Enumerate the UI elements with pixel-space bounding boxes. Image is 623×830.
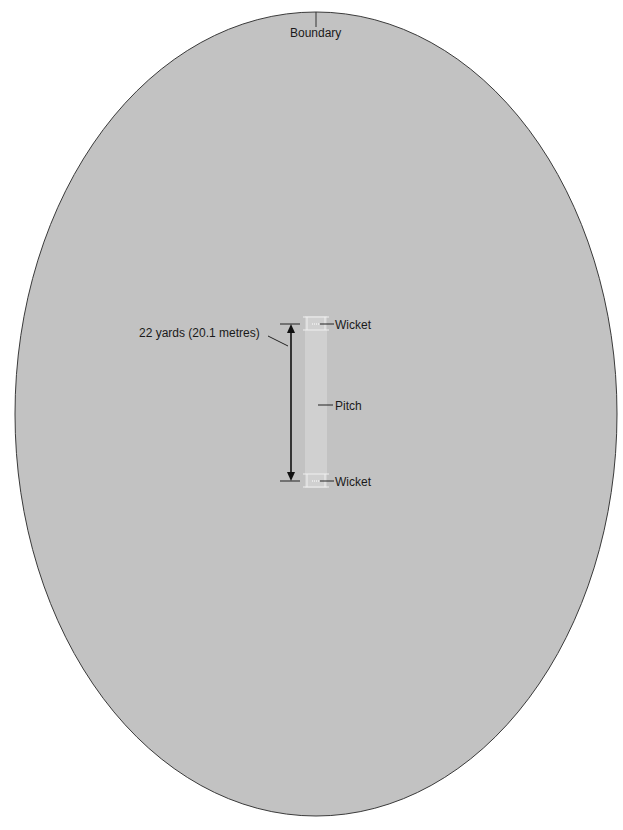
pitch-strip: [305, 316, 327, 488]
pitch-label: Pitch: [335, 399, 362, 413]
wicket-bottom-label: Wicket: [335, 475, 371, 489]
wicket-top-label: Wicket: [335, 318, 371, 332]
measurement-label: 22 yards (20.1 metres): [139, 326, 260, 340]
cricket-field-diagram: [0, 0, 623, 830]
boundary-label: Boundary: [290, 26, 341, 40]
